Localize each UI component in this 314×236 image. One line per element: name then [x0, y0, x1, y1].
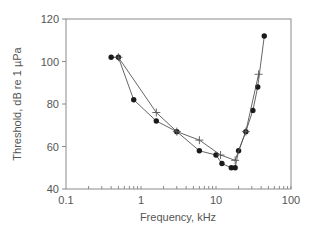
data-point-circle	[219, 161, 224, 166]
data-point-circle	[262, 33, 267, 38]
series-line-2	[118, 57, 258, 160]
threshold-chart: 4060801001200.1110100 Frequency, kHz Thr…	[0, 0, 314, 236]
y-tick-label: 120	[41, 13, 59, 25]
data-point-circle	[154, 118, 159, 123]
x-tick-label: 0.1	[58, 194, 73, 206]
y-tick-label: 40	[47, 183, 59, 195]
x-tick-label: 10	[210, 194, 222, 206]
y-axis-label: Threshold, dB re 1 µPa	[11, 46, 23, 160]
data-point-circle	[232, 165, 237, 170]
data-series	[108, 33, 267, 170]
plot-axes	[66, 19, 291, 189]
data-point-circle	[108, 55, 113, 60]
axis-ticks: 4060801001200.1110100	[41, 13, 301, 206]
y-tick-label: 80	[47, 98, 59, 110]
x-axis-label: Frequency, kHz	[140, 211, 216, 223]
y-tick-label: 100	[41, 56, 59, 68]
x-tick-label: 1	[138, 194, 144, 206]
y-tick-label: 60	[47, 141, 59, 153]
plot-frame	[66, 19, 291, 189]
x-tick-label: 100	[282, 194, 300, 206]
data-point-circle	[197, 148, 202, 153]
data-point-circle	[131, 97, 136, 102]
